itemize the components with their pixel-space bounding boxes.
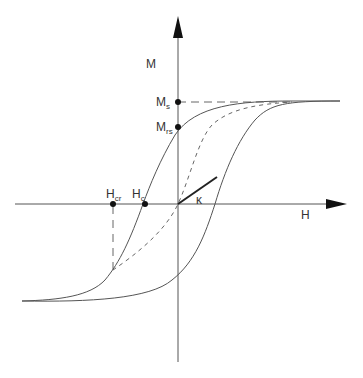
hysteresis-diagram: M H Ms Mrs Hc Hcr κ	[0, 0, 363, 378]
mrs-label-sub: rs	[166, 127, 173, 136]
h-axis-arrow-icon	[326, 199, 347, 209]
hcr-label-sub: cr	[115, 194, 122, 203]
ms-label: Ms	[156, 95, 170, 111]
mrs-label: Mrs	[156, 120, 173, 136]
mrs-label-main: M	[156, 120, 166, 134]
ms-label-sub: s	[166, 102, 170, 111]
hc-label: Hc	[132, 187, 145, 203]
kappa-label: κ	[196, 193, 203, 207]
hc-label-main: H	[132, 187, 141, 201]
hcr-label: Hcr	[106, 187, 122, 203]
hc-label-sub: c	[141, 194, 145, 203]
ms-point	[175, 99, 181, 105]
m-axis-label: M	[146, 57, 156, 71]
mrs-point	[175, 124, 181, 130]
ms-label-main: M	[156, 95, 166, 109]
m-axis-arrow-icon	[173, 16, 183, 38]
h-axis-label: H	[301, 208, 310, 222]
hcr-label-main: H	[106, 187, 115, 201]
